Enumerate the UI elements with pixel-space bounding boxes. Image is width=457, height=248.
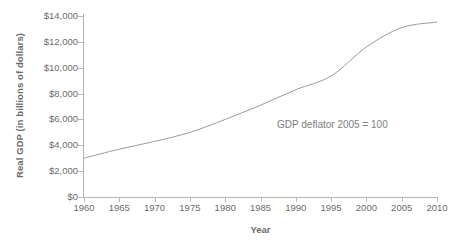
- series-plot: [0, 0, 457, 248]
- series-line-real-gdp: [84, 22, 437, 158]
- gdp-line-chart: Real GDP (in billions of dollars) $0$2,0…: [0, 0, 457, 248]
